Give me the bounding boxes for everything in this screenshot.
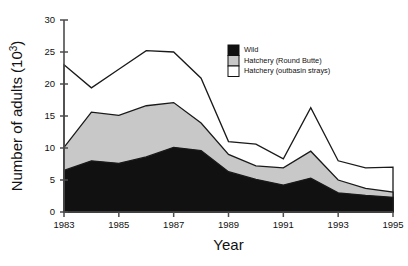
chart-container: 0510152025301983198519871989199119931995… (0, 0, 408, 266)
x-tick-label-1985: 1985 (108, 219, 129, 230)
x-tick-label-1991: 1991 (273, 219, 294, 230)
y-tick-label-15: 15 (44, 110, 55, 121)
legend-label-0: Wild (244, 45, 258, 54)
stacked-area-chart: 0510152025301983198519871989199119931995… (0, 0, 408, 266)
legend-swatch-2 (228, 66, 239, 77)
legend-swatch-1 (228, 56, 239, 67)
x-tick-label-1989: 1989 (218, 219, 239, 230)
y-axis-title: Number of adults (103) (8, 41, 26, 192)
x-tick-label-1983: 1983 (53, 219, 74, 230)
legend-label-1: Hatchery (Round Butte) (244, 56, 322, 65)
y-tick-label-5: 5 (50, 174, 55, 185)
x-axis-title: Year (213, 236, 243, 253)
x-tick-label-1993: 1993 (328, 219, 349, 230)
y-tick-label-30: 30 (44, 14, 55, 25)
y-tick-label-0: 0 (50, 206, 55, 217)
y-tick-label-20: 20 (44, 78, 55, 89)
y-tick-label-10: 10 (44, 142, 55, 153)
y-tick-label-25: 25 (44, 46, 55, 57)
legend-swatch-0 (228, 45, 239, 56)
legend-label-2: Hatchery (outbasin strays) (244, 66, 330, 75)
x-tick-label-1995: 1995 (382, 219, 403, 230)
x-tick-label-1987: 1987 (163, 219, 184, 230)
